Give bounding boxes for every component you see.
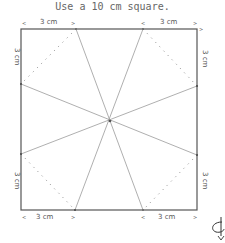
label-top-right: 3 cm <box>160 18 178 26</box>
fold-line <box>21 86 197 154</box>
svg-text:>: > <box>71 20 75 26</box>
svg-text:>: > <box>193 20 197 26</box>
dotted-line-top-left <box>21 29 76 84</box>
svg-text:>: > <box>199 26 203 32</box>
dotted-line-bottom-right <box>143 155 197 210</box>
svg-text:<: < <box>22 214 26 220</box>
center-point <box>109 120 112 123</box>
point-marker <box>142 209 144 211</box>
label-left-bottom: 3 cm <box>13 172 21 190</box>
dotted-line-bottom-left <box>21 154 75 210</box>
label-bottom-right: 3 cm <box>158 213 176 221</box>
folding-diagram: < > < > < > < > > 3 cm 3 cm 3 cm 3 cm 3 … <box>0 0 225 243</box>
turn-over-icon <box>213 217 224 240</box>
label-bottom-left: 3 cm <box>36 213 54 221</box>
point-marker <box>196 85 198 87</box>
label-right-top: 3 cm <box>201 50 209 68</box>
svg-text:<: < <box>141 20 145 26</box>
point-marker <box>142 28 144 30</box>
svg-text:>: > <box>71 214 75 220</box>
dotted-line-top-right <box>143 29 197 86</box>
point-marker <box>20 83 22 85</box>
label-right-bottom: 3 cm <box>201 172 209 190</box>
fold-line <box>21 84 197 155</box>
point-marker <box>196 154 198 156</box>
label-top-left: 3 cm <box>40 18 58 26</box>
svg-text:<: < <box>141 214 145 220</box>
fold-lines <box>21 29 197 210</box>
svg-text:>: > <box>193 214 197 220</box>
svg-text:<: < <box>22 20 26 26</box>
point-marker <box>75 28 77 30</box>
point-marker <box>20 153 22 155</box>
label-left-top: 3 cm <box>13 48 21 66</box>
point-marker <box>74 209 76 211</box>
